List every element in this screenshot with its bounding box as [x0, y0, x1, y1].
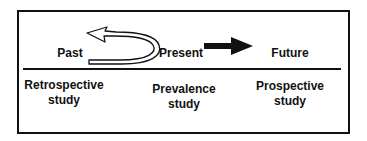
arrows-layer — [0, 0, 367, 141]
prospective-line1: Prospective — [248, 79, 332, 94]
prospective-line2: study — [248, 94, 332, 109]
label-prospective-study: Prospective study — [248, 79, 332, 109]
prevalence-line2: study — [142, 97, 226, 112]
label-retrospective-study: Retrospective study — [22, 78, 106, 108]
retrospective-line1: Retrospective — [22, 78, 106, 93]
timeline-divider — [23, 68, 341, 70]
label-present: Present — [156, 46, 206, 61]
forward-arrow-icon — [204, 37, 253, 55]
retrospective-line2: study — [22, 93, 106, 108]
label-past: Past — [52, 46, 88, 61]
prevalence-line1: Prevalence — [142, 82, 226, 97]
label-prevalence-study: Prevalence study — [142, 82, 226, 112]
label-future: Future — [262, 46, 318, 61]
curved-back-arrow-icon — [87, 27, 160, 64]
